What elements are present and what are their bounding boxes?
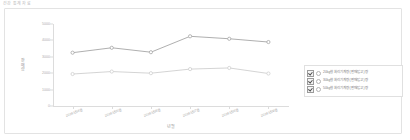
x-tick-mark [73, 106, 74, 109]
data-point-marker[interactable] [267, 72, 270, 75]
series-line [73, 36, 269, 52]
data-point-marker[interactable] [149, 51, 152, 54]
data-point-marker[interactable] [71, 72, 74, 75]
y-axis-title: 판매량 [19, 58, 25, 72]
data-point-marker[interactable] [267, 40, 270, 43]
legend-radio[interactable] [316, 71, 322, 77]
data-point-marker[interactable] [110, 46, 113, 49]
legend-label: 50kg형 처리기계량(판매/입고)량 [323, 86, 368, 90]
x-tick-mark [151, 106, 152, 109]
legend-radio[interactable] [316, 79, 322, 85]
x-tick-mark [229, 106, 230, 109]
x-axis-title: 년월 [53, 123, 289, 129]
x-tick-mark [112, 106, 113, 109]
series-lines [53, 24, 288, 106]
data-point-marker[interactable] [71, 51, 74, 54]
x-tick-mark [190, 106, 191, 109]
chart-screen: 건강 통계 자료 판매량 500040003000200010000 2016년… [0, 0, 410, 140]
legend-label: 30kg형 처리기계량(판매/입고)량 [323, 78, 368, 82]
legend-box[interactable]: 20kg형 처리기계량(판매/입고)량30kg형 처리기계량(판매/입고)량50… [304, 65, 403, 97]
legend-row[interactable]: 30kg형 처리기계량(판매/입고)량 [307, 78, 400, 85]
chart-panel: 판매량 500040003000200010000 2016년04월2016년0… [4, 8, 402, 134]
legend-checkbox[interactable] [307, 70, 314, 77]
data-point-marker[interactable] [228, 66, 231, 69]
data-point-marker[interactable] [228, 37, 231, 40]
y-tick-label: 1000 [42, 88, 50, 92]
chart-area: 판매량 500040003000200010000 2016년04월2016년0… [5, 9, 305, 135]
data-point-marker[interactable] [188, 68, 191, 71]
page-header-label: 건강 통계 자료 [3, 0, 31, 6]
legend-label: 20kg형 처리기계량(판매/입고)량 [323, 70, 368, 74]
data-point-marker[interactable] [110, 70, 113, 73]
x-axis-line [53, 106, 289, 107]
data-point-marker[interactable] [188, 35, 191, 38]
legend-radio[interactable] [316, 87, 322, 93]
legend-checkbox[interactable] [307, 78, 314, 85]
legend-checkbox[interactable] [307, 86, 314, 93]
x-tick-mark [268, 106, 269, 109]
legend-row[interactable]: 20kg형 처리기계량(판매/입고)량 [307, 70, 400, 77]
plot-region: 500040003000200010000 2016년04월2016년05월20… [53, 24, 288, 106]
y-tick-label: 4000 [42, 38, 50, 42]
y-tick-label: 2000 [42, 71, 50, 75]
legend-row[interactable]: 50kg형 처리기계량(판매/입고)량 [307, 86, 400, 93]
data-point-marker[interactable] [149, 72, 152, 75]
series-line [73, 68, 269, 74]
y-tick-label: 5000 [42, 22, 50, 26]
y-tick-label: 3000 [42, 55, 50, 59]
